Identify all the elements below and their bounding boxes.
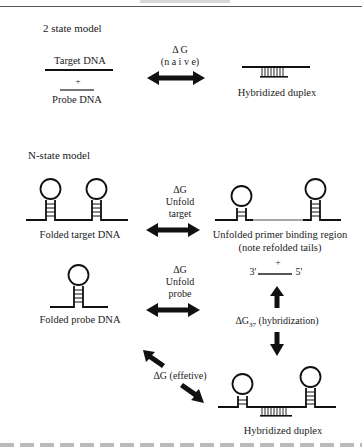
dg-unfold-probe: ΔG (150, 264, 210, 276)
dg37-suffix: (hybridization) (256, 315, 318, 326)
duplex-label-2state: Hybridized duplex (232, 87, 322, 98)
dg-naive-sub: (n a i v e) (145, 56, 215, 68)
arrow-diagonal-down-right-icon (180, 383, 204, 403)
double-arrow-naive-icon (147, 70, 205, 86)
unfold-probe-line2: probe (150, 288, 210, 300)
unfolded-target-dna-icon (215, 170, 345, 222)
dg37-symbol: ΔG (235, 315, 249, 326)
target-dna-label: Target DNA (45, 55, 115, 66)
running-head-cutoff (140, 0, 230, 3)
unfold-probe-line1: Unfold (150, 276, 210, 288)
final-duplex-label: Hybridized duplex (233, 425, 333, 436)
plus-sign: + (70, 75, 86, 87)
header-rule (0, 6, 362, 7)
two-state-title: 2 state model (43, 22, 102, 34)
dg-effective-label: ΔG (effetive) (140, 370, 220, 382)
figure-caption-cutoff (0, 442, 362, 448)
unfold-target-line2: target (150, 208, 210, 220)
dg37-hybridization-label: ΔG37 (hybridization) (222, 315, 332, 331)
arrow-down-icon (270, 332, 284, 356)
five-prime-end: 5' (294, 266, 304, 278)
folded-target-dna-icon (26, 170, 130, 222)
folded-probe-label: Folded probe DNA (32, 314, 128, 325)
plus-sign-n-state: + (270, 256, 286, 268)
dg-unfold-target: ΔG (150, 184, 210, 196)
n-state-title: N-state model (28, 149, 90, 161)
arrow-diagonal-up-left-icon (143, 350, 165, 368)
double-arrow-unfold-probe-icon (146, 302, 200, 318)
arrow-up-icon (270, 286, 284, 308)
unfold-target-line1: Unfold (150, 196, 210, 208)
hybridized-duplex-folded-icon (218, 372, 338, 420)
probe-dna-label: Probe DNA (45, 94, 109, 105)
dg-naive-label: Δ G (150, 44, 210, 56)
double-arrow-unfold-target-icon (146, 222, 200, 238)
probe-strand (258, 273, 292, 275)
folded-target-label: Folded target DNA (30, 229, 130, 240)
unfolded-region-label: Unfolded primer binding region (200, 229, 360, 240)
folded-probe-dna-icon (50, 262, 110, 310)
target-dna-strand (45, 69, 113, 71)
refolded-tails-note: (note refolded tails) (200, 242, 360, 253)
hybridized-duplex-icon (242, 66, 310, 78)
three-prime-end: 3' (248, 266, 258, 278)
probe-dna-strand (60, 89, 94, 91)
